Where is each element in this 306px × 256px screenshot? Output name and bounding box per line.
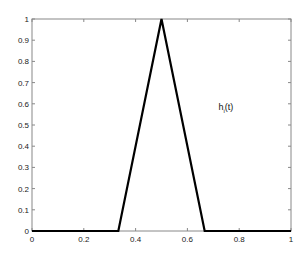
x-tick-label: 0.6 (182, 235, 194, 244)
y-tick-label: 0.3 (18, 163, 30, 172)
y-tick-label: 0 (25, 227, 30, 236)
x-tick-label: 1 (289, 235, 294, 244)
chart: 00.20.40.60.8100.10.20.30.40.50.60.70.80… (0, 0, 306, 256)
annotation-suffix: (t) (225, 102, 234, 112)
y-tick-label: 0.9 (18, 36, 30, 45)
y-tick-label: 0.2 (18, 185, 30, 194)
x-tick-label: 0.8 (234, 235, 246, 244)
y-tick-label: 0.5 (18, 121, 30, 130)
annotation-h-i-t: hi(t) (218, 102, 233, 114)
x-tick-label: 0.4 (130, 235, 142, 244)
y-tick-label: 0.7 (18, 79, 30, 88)
y-tick-label: 0.4 (18, 142, 30, 151)
y-tick-label: 0.8 (18, 57, 30, 66)
series-line-h-i (32, 19, 291, 231)
y-tick-label: 1 (25, 15, 30, 24)
y-tick-label: 0.1 (18, 206, 30, 215)
plot-area-frame (32, 19, 291, 231)
x-tick-label: 0 (30, 235, 35, 244)
y-tick-label: 0.6 (18, 100, 30, 109)
x-tick-label: 0.2 (78, 235, 90, 244)
